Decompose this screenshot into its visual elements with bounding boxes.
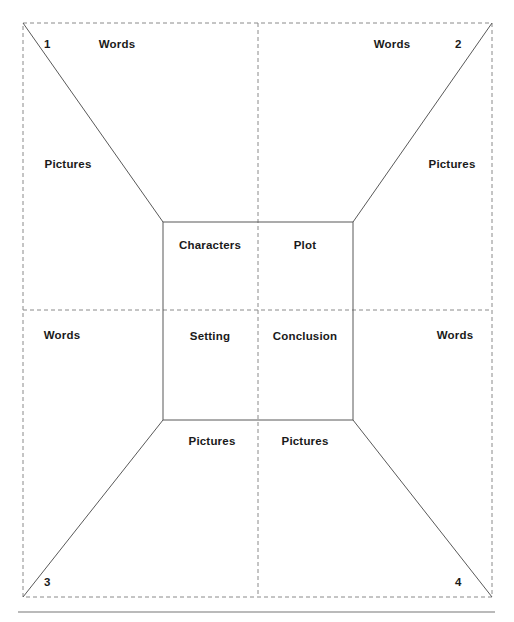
label-cell-setting: Setting — [190, 331, 230, 343]
label-pictures-left: Pictures — [45, 159, 92, 171]
diagonal-bottom-left — [23, 420, 163, 597]
label-cell-characters: Characters — [179, 240, 241, 252]
label-words-top-left: Words — [99, 39, 136, 51]
label-cell-plot: Plot — [294, 240, 317, 252]
story-planning-diagram — [0, 0, 514, 622]
quadrant-number-4: 4 — [455, 577, 461, 589]
label-words-top-right: Words — [374, 39, 411, 51]
quadrant-number-2: 2 — [455, 39, 461, 51]
label-words-middle-left: Words — [44, 330, 81, 342]
diagram-page: 1 2 3 4 Words Words Words Words Pictures… — [0, 0, 514, 622]
label-cell-conclusion: Conclusion — [273, 331, 338, 343]
diagonal-bottom-right — [353, 420, 492, 597]
diagonal-top-left — [23, 23, 163, 222]
quadrant-number-3: 3 — [44, 577, 50, 589]
label-words-middle-right: Words — [437, 330, 474, 342]
quadrant-number-1: 1 — [44, 39, 50, 51]
diagonal-top-right — [353, 23, 492, 222]
label-pictures-bottom-left: Pictures — [189, 436, 236, 448]
label-pictures-right: Pictures — [429, 159, 476, 171]
label-pictures-bottom-right: Pictures — [282, 436, 329, 448]
